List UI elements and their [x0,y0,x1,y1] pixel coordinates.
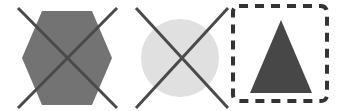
shapes-illustration [0,0,340,111]
panel-hexagon[interactable] [18,8,117,108]
panel-circle[interactable] [136,8,228,108]
shape-comparison-canvas: Hexagon Circle Triangle [0,0,340,111]
